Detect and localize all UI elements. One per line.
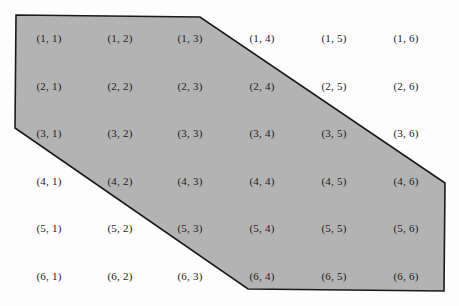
outcome-cell: (5, 4) — [249, 222, 274, 234]
outcome-cell: (3, 4) — [249, 127, 274, 139]
outcome-cell: (5, 3) — [177, 222, 202, 234]
outcome-cell: (2, 6) — [393, 80, 418, 92]
outcome-cell: (3, 5) — [321, 127, 346, 139]
outcome-cell: (4, 4) — [249, 175, 274, 187]
outcome-cell: (1, 2) — [107, 32, 132, 44]
outcome-cell: (5, 2) — [107, 222, 132, 234]
outcome-cell: (2, 1) — [36, 80, 61, 92]
outcome-cell: (3, 1) — [36, 127, 61, 139]
outcome-cell: (4, 1) — [36, 175, 61, 187]
outcome-cell: (5, 1) — [36, 222, 61, 234]
outcome-cell: (6, 5) — [321, 270, 346, 282]
outcome-cell: (4, 6) — [393, 175, 418, 187]
outcome-cell: (1, 4) — [249, 32, 274, 44]
sample-space-diagram: (1, 1)(1, 2)(1, 3)(1, 4)(1, 5)(1, 6)(2, … — [0, 0, 459, 306]
outcome-cell: (6, 1) — [36, 270, 61, 282]
event-region-polygon — [15, 15, 445, 291]
outcome-cell: (3, 6) — [393, 127, 418, 139]
outcome-cell: (5, 5) — [321, 222, 346, 234]
outcome-cell: (5, 6) — [393, 222, 418, 234]
outcome-cell: (4, 5) — [321, 175, 346, 187]
outcome-cell: (1, 1) — [36, 32, 61, 44]
outcome-cell: (4, 3) — [177, 175, 202, 187]
outcome-cell: (2, 2) — [107, 80, 132, 92]
outcome-cell: (6, 4) — [249, 270, 274, 282]
outcome-cell: (3, 3) — [177, 127, 202, 139]
outcome-cell: (2, 5) — [321, 80, 346, 92]
outcome-cell: (6, 2) — [107, 270, 132, 282]
outcome-cell: (2, 4) — [249, 80, 274, 92]
outcome-cell: (6, 3) — [177, 270, 202, 282]
outcome-cell: (6, 6) — [393, 270, 418, 282]
outcome-cell: (4, 2) — [107, 175, 132, 187]
outcome-cell: (2, 3) — [177, 80, 202, 92]
outcome-cell: (1, 5) — [321, 32, 346, 44]
outcome-cell: (1, 6) — [393, 32, 418, 44]
shaded-region — [0, 0, 459, 306]
outcome-cell: (1, 3) — [177, 32, 202, 44]
outcome-cell: (3, 2) — [107, 127, 132, 139]
